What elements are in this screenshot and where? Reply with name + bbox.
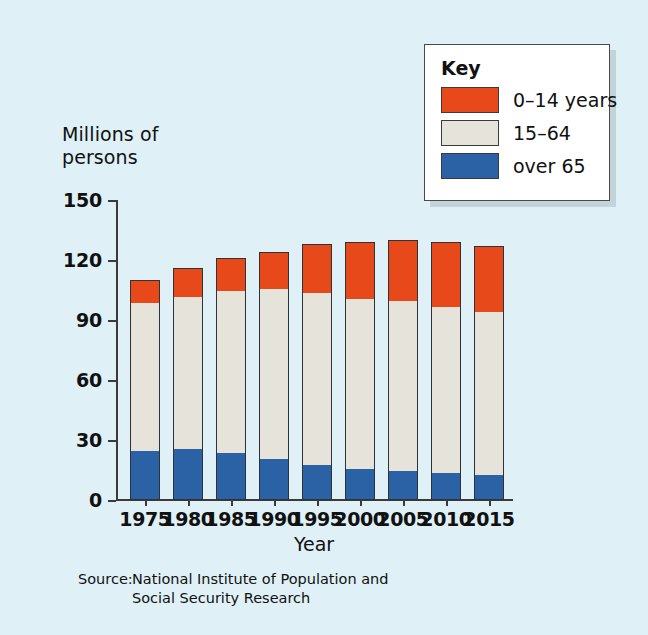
- bar-segment: [131, 303, 159, 452]
- bar-segment: [346, 469, 374, 499]
- bar-segment: [346, 299, 374, 470]
- y-tick-150: 150: [108, 200, 116, 202]
- bar-segment: [174, 449, 202, 499]
- bars-layer: [116, 200, 512, 500]
- x-tick-mark: [145, 499, 147, 506]
- x-tick-mark: [188, 499, 190, 506]
- legend-item-label: over 65: [513, 155, 586, 177]
- bar-segment: [303, 293, 331, 466]
- y-tick-30: 30: [108, 440, 116, 442]
- legend-item-label: 15–64: [513, 122, 571, 144]
- y-tick-90: 90: [108, 320, 116, 322]
- y-tick-label: 30: [76, 429, 102, 451]
- bar-1980: [173, 268, 203, 500]
- bar-1975: [130, 280, 160, 500]
- x-tick-mark: [274, 499, 276, 506]
- y-axis-title: Millions of persons: [62, 123, 159, 169]
- bar-segment: [260, 253, 288, 289]
- source-label: Source:: [78, 570, 132, 589]
- bar-segment: [131, 451, 159, 499]
- bar-segment: [432, 473, 460, 499]
- bar-segment: [260, 459, 288, 499]
- x-tick-mark: [403, 499, 405, 506]
- y-tick-label: 0: [89, 489, 102, 511]
- bar-1990: [259, 252, 289, 500]
- x-tick-mark: [446, 499, 448, 506]
- x-tick-mark: [231, 499, 233, 506]
- x-tick-mark: [360, 499, 362, 506]
- plot-area: 0306090120150 19751980198519901995200020…: [116, 200, 512, 500]
- bar-segment: [303, 465, 331, 499]
- bar-segment: [432, 243, 460, 307]
- bar-segment: [389, 471, 417, 499]
- bar-segment: [217, 291, 245, 454]
- bar-segment: [217, 259, 245, 291]
- legend-swatch-icon: [441, 153, 499, 179]
- bar-segment: [303, 245, 331, 293]
- bar-segment: [131, 281, 159, 303]
- chart-root: Millions of persons 0306090120150 197519…: [0, 0, 648, 635]
- bar-2010: [431, 242, 461, 500]
- bar-segment: [174, 269, 202, 297]
- bar-segment: [389, 301, 417, 472]
- legend-item: 15–64: [441, 120, 609, 146]
- source-note: Source:National Institute of Population …: [78, 570, 389, 608]
- legend-item-label: 0–14 years: [513, 89, 617, 111]
- bar-segment: [174, 297, 202, 450]
- y-tick-label: 120: [63, 249, 102, 271]
- legend-item: over 65: [441, 153, 609, 179]
- bar-segment: [346, 243, 374, 299]
- source-text: National Institute of Population and Soc…: [132, 570, 389, 608]
- bar-segment: [475, 247, 503, 312]
- x-tick-label-2015: 2015: [463, 508, 514, 530]
- legend: Key 0–14 years15–64over 65: [424, 44, 610, 201]
- y-tick-label: 90: [76, 309, 102, 331]
- bar-2015: [474, 246, 504, 500]
- y-tick-0: 0: [108, 500, 116, 502]
- bar-segment: [432, 307, 460, 474]
- legend-swatch-icon: [441, 87, 499, 113]
- bar-segment: [475, 312, 503, 475]
- y-tick-60: 60: [108, 380, 116, 382]
- x-tick-mark: [489, 499, 491, 506]
- legend-items: 0–14 years15–64over 65: [425, 87, 609, 179]
- x-axis-title: Year: [116, 533, 512, 555]
- y-tick-120: 120: [108, 260, 116, 262]
- y-tick-label: 60: [76, 369, 102, 391]
- x-tick-mark: [317, 499, 319, 506]
- bar-segment: [389, 241, 417, 301]
- bar-segment: [217, 453, 245, 499]
- legend-swatch-icon: [441, 120, 499, 146]
- bar-2005: [388, 240, 418, 500]
- bar-2000: [345, 242, 375, 500]
- legend-item: 0–14 years: [441, 87, 609, 113]
- bar-segment: [260, 289, 288, 460]
- y-tick-label: 150: [63, 189, 102, 211]
- legend-title: Key: [441, 57, 609, 79]
- bar-1995: [302, 244, 332, 500]
- bar-segment: [475, 475, 503, 499]
- bar-1985: [216, 258, 246, 500]
